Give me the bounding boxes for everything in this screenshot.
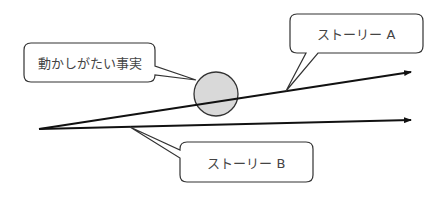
fact-callout-label: 動かしがたい事実 bbox=[24, 43, 155, 82]
story-b-callout-label: ストーリー B bbox=[180, 142, 313, 182]
story-a-callout-label: ストーリー A bbox=[290, 14, 423, 53]
fact-circle bbox=[194, 72, 238, 116]
